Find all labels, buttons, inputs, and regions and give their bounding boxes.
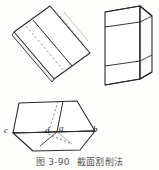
vertex-label-c: c [4,126,8,135]
vertex-label-d: d [45,126,50,135]
figure-page: c d a b 图 3-90 截面割削法 [0,0,159,170]
vertex-label-b: b [93,125,98,134]
unfolded-sheet-net [12,6,90,82]
prism-3d [105,6,152,85]
technical-drawing [0,0,159,170]
pentagon-top-face [13,101,95,133]
pentagon-solid [13,101,95,151]
vertex-label-a: a [59,124,64,133]
caption-number: 图 3-90 [36,157,70,168]
caption-title: 截面割削法 [77,157,124,168]
figure-caption: 图 3-90 截面割削法 [0,157,159,170]
